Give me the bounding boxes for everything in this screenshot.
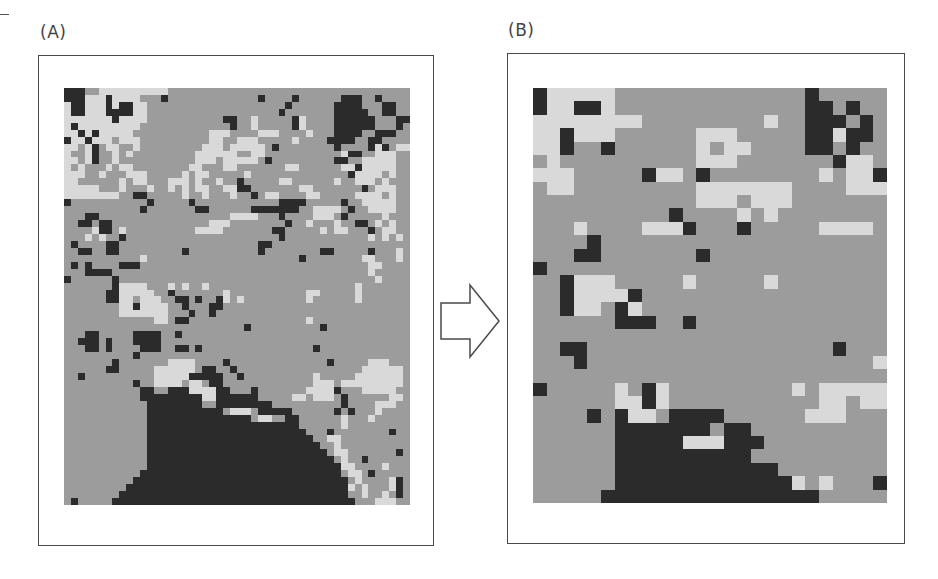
grid-cell bbox=[64, 269, 71, 276]
grid-cell bbox=[119, 185, 126, 192]
grid-cell bbox=[230, 241, 237, 248]
grid-cell bbox=[778, 396, 792, 409]
grid-cell bbox=[92, 144, 99, 151]
grid-cell bbox=[78, 429, 85, 436]
grid-cell bbox=[819, 195, 833, 208]
grid-cell bbox=[396, 338, 403, 345]
grid-cell bbox=[154, 227, 161, 234]
grid-cell bbox=[683, 356, 697, 369]
grid-cell bbox=[112, 130, 119, 137]
grid-cell bbox=[147, 88, 154, 95]
grid-cell bbox=[161, 296, 168, 303]
grid-cell bbox=[237, 206, 244, 213]
grid-cell bbox=[85, 352, 92, 359]
grid-cell bbox=[792, 195, 806, 208]
grid-cell bbox=[244, 484, 251, 491]
grid-cell bbox=[396, 296, 403, 303]
grid-cell bbox=[320, 380, 327, 387]
grid-cell bbox=[189, 220, 196, 227]
grid-cell bbox=[382, 408, 389, 415]
grid-cell bbox=[182, 290, 189, 297]
grid-cell bbox=[92, 116, 99, 123]
grid-cell bbox=[168, 422, 175, 429]
grid-cell bbox=[258, 373, 265, 380]
grid-cell bbox=[251, 359, 258, 366]
grid-cell bbox=[71, 435, 78, 442]
grid-cell bbox=[279, 484, 286, 491]
grid-cell bbox=[547, 222, 561, 235]
grid-cell bbox=[368, 408, 375, 415]
grid-cell bbox=[313, 220, 320, 227]
grid-cell bbox=[119, 227, 126, 234]
grid-cell bbox=[140, 317, 147, 324]
grid-cell bbox=[348, 213, 355, 220]
grid-cell bbox=[805, 168, 819, 181]
grid-cell bbox=[85, 283, 92, 290]
grid-cell bbox=[292, 324, 299, 331]
grid-cell bbox=[272, 442, 279, 449]
grid-cell bbox=[71, 130, 78, 137]
grid-cell bbox=[258, 137, 265, 144]
grid-cell bbox=[71, 422, 78, 429]
grid-cell bbox=[147, 290, 154, 297]
grid-cell bbox=[285, 88, 292, 95]
grid-cell bbox=[161, 422, 168, 429]
grid-cell bbox=[403, 387, 410, 394]
grid-cell bbox=[341, 435, 348, 442]
grid-cell bbox=[133, 331, 140, 338]
grid-cell bbox=[389, 213, 396, 220]
grid-cell bbox=[106, 151, 113, 158]
grid-cell bbox=[299, 255, 306, 262]
grid-cell bbox=[230, 185, 237, 192]
grid-cell bbox=[348, 317, 355, 324]
grid-cell bbox=[195, 276, 202, 283]
grid-cell bbox=[189, 116, 196, 123]
grid-cell bbox=[237, 310, 244, 317]
grid-cell bbox=[189, 303, 196, 310]
grid-cell bbox=[574, 222, 588, 235]
grid-cell bbox=[389, 95, 396, 102]
grid-cell bbox=[202, 470, 209, 477]
grid-cell bbox=[805, 490, 819, 503]
grid-cell bbox=[403, 491, 410, 498]
grid-cell bbox=[126, 234, 133, 241]
grid-cell bbox=[846, 275, 860, 288]
grid-cell bbox=[285, 415, 292, 422]
grid-cell bbox=[140, 109, 147, 116]
grid-cell bbox=[292, 164, 299, 171]
grid-cell bbox=[313, 303, 320, 310]
grid-cell bbox=[299, 310, 306, 317]
grid-cell bbox=[140, 88, 147, 95]
grid-cell bbox=[92, 234, 99, 241]
grid-cell bbox=[223, 422, 230, 429]
grid-cell bbox=[85, 310, 92, 317]
grid-cell bbox=[251, 255, 258, 262]
grid-cell bbox=[71, 262, 78, 269]
grid-cell bbox=[696, 409, 710, 422]
grid-cell bbox=[106, 317, 113, 324]
grid-cell bbox=[237, 241, 244, 248]
grid-cell bbox=[348, 435, 355, 442]
grid-cell bbox=[265, 185, 272, 192]
grid-cell bbox=[189, 102, 196, 109]
grid-cell bbox=[547, 383, 561, 396]
grid-cell bbox=[642, 155, 656, 168]
grid-cell bbox=[382, 95, 389, 102]
grid-cell bbox=[285, 178, 292, 185]
grid-cell bbox=[368, 498, 375, 505]
grid-cell bbox=[182, 484, 189, 491]
grid-cell bbox=[64, 95, 71, 102]
grid-cell bbox=[195, 192, 202, 199]
grid-cell bbox=[140, 442, 147, 449]
grid-cell bbox=[341, 88, 348, 95]
grid-cell bbox=[85, 164, 92, 171]
grid-cell bbox=[112, 192, 119, 199]
grid-cell bbox=[71, 477, 78, 484]
grid-cell bbox=[272, 116, 279, 123]
grid-cell bbox=[601, 115, 615, 128]
grid-cell bbox=[161, 213, 168, 220]
grid-cell bbox=[574, 409, 588, 422]
grid-cell bbox=[272, 477, 279, 484]
grid-cell bbox=[656, 275, 670, 288]
grid-cell bbox=[299, 373, 306, 380]
